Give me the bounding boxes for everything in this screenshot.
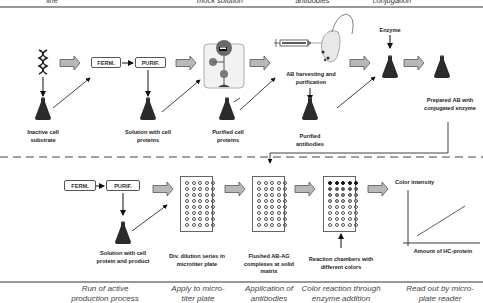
diagram-graphics — [0, 0, 483, 303]
caption-prepared-ab: Prepared AB with conjugated enzyme — [420, 97, 480, 112]
chart-xlabel: Amount of HC-protein — [405, 248, 481, 256]
mouse-icon — [321, 14, 353, 62]
caption-inactive-substrate: Inactive cell substrate — [20, 129, 66, 144]
microtiter-plate-dilution — [180, 176, 213, 232]
ferm-box-bottom: FERM. — [64, 180, 96, 191]
footer-label-apply-plate: Apply to micro-titer plate — [168, 284, 228, 303]
footer-label-read-out: Read out by micro-plate reader — [405, 284, 475, 303]
caption-ab-harvesting: AB harvesting and purification — [280, 71, 342, 86]
caption-dilution-series: Div. dilution series in microtiter plate — [167, 253, 227, 268]
microtiter-plate-flushed — [252, 176, 285, 232]
footer-label-application-ab: Application of antibodies — [238, 284, 300, 303]
microtiter-plate-reaction — [323, 176, 356, 232]
purif-box-bottom: PURIF. — [106, 180, 140, 191]
footer-label-color-reaction: Color reaction through enzyme addition — [300, 284, 382, 303]
ferm-box-top: FERM. — [91, 57, 121, 68]
caption-solution-product: Solution with cell protein and product — [95, 250, 151, 265]
caption-purified-cell-proteins: Purified cell proteins — [205, 129, 251, 144]
syringe-icon — [274, 39, 325, 47]
purification-apparatus-icon — [204, 40, 244, 88]
caption-enzyme: Enzyme — [376, 27, 404, 35]
purif-box-top: PURIF. — [135, 57, 166, 68]
chart-ylabel: Color intensity — [395, 179, 455, 187]
footer-label-run-production: Run of active production process — [70, 284, 140, 303]
caption-reaction-chambers: Reaction chambers with different colors — [308, 256, 374, 271]
dna-helix-icon — [39, 50, 47, 74]
caption-flushed-complexes: Flushed AB-AG complexes at solid matrix — [243, 253, 295, 276]
calibration-chart — [403, 190, 480, 246]
caption-purified-antibodies: Purified antibodies — [288, 133, 332, 148]
caption-solution-cell-proteins: Solution with cell proteins — [120, 129, 176, 144]
